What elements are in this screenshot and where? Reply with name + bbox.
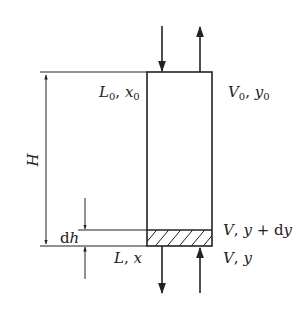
label-element-height: dh bbox=[60, 229, 79, 247]
column-body bbox=[147, 72, 212, 246]
label-bottom-left: L, x bbox=[113, 249, 143, 267]
label-top-right: V0, y0 bbox=[228, 83, 270, 102]
label-height: H bbox=[24, 153, 42, 168]
label-bottom-right: V, y bbox=[223, 249, 252, 267]
label-top-left: L0, x0 bbox=[98, 83, 140, 102]
column-diagram: L0, x0 V0, y0 H dh V, y + dy L, x V, y bbox=[0, 0, 307, 310]
label-element-top-right: V, y + dy bbox=[223, 221, 293, 239]
